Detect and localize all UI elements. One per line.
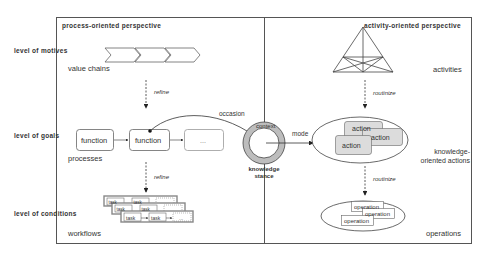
svg-text:operation: operation (344, 218, 369, 224)
svg-text:function: function (135, 136, 161, 145)
svg-text:operation: operation (354, 204, 379, 210)
processes-label: processes (68, 155, 102, 163)
svg-text:...: ... (179, 215, 183, 221)
svg-text:action: action (371, 134, 390, 141)
svg-text:function: function (81, 136, 107, 145)
operations-label: operations (426, 230, 461, 238)
activity-perspective-title: activity-oriented perspective (364, 22, 461, 29)
svg-text:task: task (151, 215, 161, 221)
svg-text:...: ... (200, 137, 206, 144)
level-motives-label: level of motives (14, 47, 68, 54)
level-goals-label: level of goals (14, 132, 59, 139)
knowledge-actions-label: knowledge-oriented actions (414, 147, 470, 165)
svg-text:task: task (117, 207, 126, 212)
svg-text:context: context (256, 123, 276, 129)
svg-text:action: action (352, 125, 371, 132)
occasion-label: occasion (219, 111, 245, 118)
workflows-label: workflows (68, 230, 101, 238)
routinize-label-bottom: routinize (373, 176, 396, 182)
level-conditions-label: level of conditions (14, 210, 77, 217)
knowledge-stance-label: knowledge stance (242, 166, 286, 179)
svg-text:operation: operation (365, 211, 390, 217)
workflow-stack: task task task task task task ... (104, 196, 193, 222)
svg-text:task: task (142, 207, 151, 212)
activity-triangle-icon (333, 27, 393, 72)
svg-text:task: task (126, 215, 136, 221)
value-chain-chevrons (105, 48, 200, 62)
svg-text:task: task (134, 200, 143, 205)
diagram-canvas: task task task task task task ... action… (0, 0, 487, 258)
mode-label: mode (292, 131, 308, 138)
process-perspective-title: process-oriented perspective (62, 22, 161, 29)
refine-label-bottom: refine (154, 174, 169, 180)
activities-label: activities (433, 66, 462, 74)
value-chains-label: value chains (68, 65, 110, 73)
routinize-label-top: routinize (373, 90, 396, 96)
refine-label-top: refine (154, 89, 169, 95)
svg-text:task: task (109, 200, 118, 205)
svg-text:action: action (342, 142, 361, 149)
